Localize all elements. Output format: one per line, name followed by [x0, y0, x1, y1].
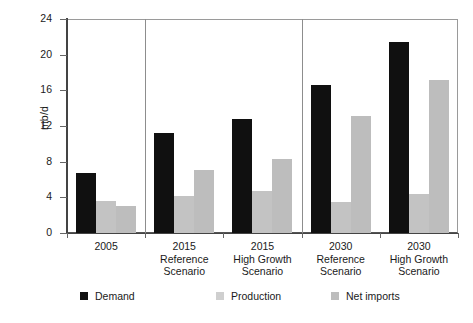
x-axis-tick — [380, 233, 381, 238]
y-axis-tick-label: 16 — [0, 83, 52, 95]
bar-demand — [232, 119, 252, 233]
category-label-line: 2030 — [366, 240, 472, 253]
bar-net-imports — [351, 116, 371, 233]
y-axis-tick-label: 4 — [0, 190, 52, 202]
bar-net-imports — [194, 170, 214, 233]
legend-item-production[interactable]: Production — [216, 290, 281, 302]
y-axis-tick-label: 12 — [0, 119, 52, 131]
x-axis-tick — [302, 233, 303, 238]
bar-net-imports — [272, 159, 292, 233]
bar-production — [174, 196, 194, 233]
bar-demand — [311, 85, 331, 233]
y-axis-tick — [60, 126, 67, 127]
bar-production — [96, 201, 116, 233]
y-axis-tick — [60, 162, 67, 163]
legend-item-net-imports[interactable]: Net imports — [331, 290, 400, 302]
y-axis-tick — [60, 19, 67, 20]
y-axis-tick-label: 20 — [0, 48, 52, 60]
y-axis-tick — [60, 197, 67, 198]
category-label-line: Scenario — [366, 265, 472, 278]
x-axis-tick — [145, 233, 146, 238]
legend-swatch-net-imports — [331, 292, 339, 300]
bar-production — [409, 194, 429, 233]
x-axis-tick — [458, 233, 459, 238]
chart-legend: DemandProductionNet imports — [0, 290, 473, 310]
bar-chart: mb/d 24201612840 20052015ReferenceScenar… — [0, 0, 473, 323]
bars-layer — [67, 19, 458, 233]
legend-item-label: Demand — [95, 290, 135, 302]
y-axis-tick-label: 8 — [0, 155, 52, 167]
legend-item-label: Net imports — [346, 290, 400, 302]
y-axis-tick-label: 24 — [0, 12, 52, 24]
x-axis-category-label: 2030High GrowthScenario — [366, 240, 472, 278]
category-label-line: High Growth — [366, 253, 472, 266]
legend-item-demand[interactable]: Demand — [80, 290, 135, 302]
x-axis-tick — [67, 233, 68, 238]
bar-demand — [76, 173, 96, 233]
y-axis-title: mb/d — [38, 88, 50, 148]
legend-swatch-production — [216, 292, 224, 300]
bar-demand — [154, 133, 174, 233]
bar-net-imports — [429, 80, 449, 233]
bar-production — [252, 191, 272, 233]
y-axis-tick-label: 0 — [0, 226, 52, 238]
bar-net-imports — [116, 206, 136, 233]
bar-production — [331, 202, 351, 233]
bar-demand — [389, 42, 409, 233]
y-axis-tick — [60, 233, 67, 234]
legend-item-label: Production — [231, 290, 281, 302]
y-axis-tick — [60, 90, 67, 91]
x-axis-tick — [223, 233, 224, 238]
legend-swatch-demand — [80, 292, 88, 300]
y-axis-tick — [60, 55, 67, 56]
